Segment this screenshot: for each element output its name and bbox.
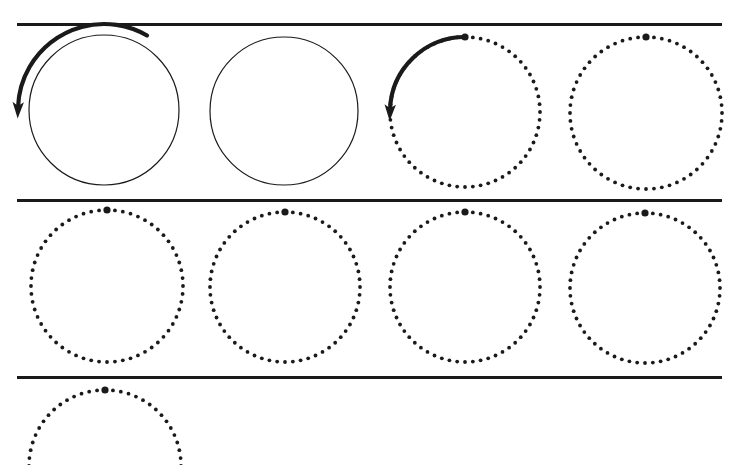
circle-sequence-figure [0, 0, 731, 465]
figure-canvas-container [0, 0, 731, 465]
